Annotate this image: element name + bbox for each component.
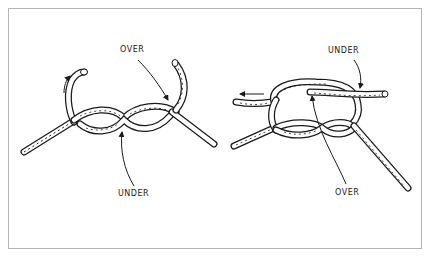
left-over-label: OVER — [120, 46, 144, 54]
right-over-label: OVER — [335, 189, 359, 197]
right-under-label: UNDER — [328, 47, 359, 55]
rope-segment — [310, 91, 388, 97]
under-pointer-arrow-icon — [354, 60, 361, 88]
rope-segment — [172, 112, 214, 144]
rope-segment — [276, 123, 354, 136]
rope-segment — [80, 116, 170, 131]
rope-segment — [273, 82, 358, 124]
rope-segment — [172, 60, 184, 111]
under-pointer-arrow-icon — [122, 132, 135, 186]
left-knot — [24, 60, 214, 187]
left-under-label: UNDER — [118, 190, 149, 198]
over-pointer-arrow-icon — [138, 60, 168, 100]
right-knot — [234, 60, 408, 188]
knot-illustration — [0, 0, 429, 257]
rope-segment — [236, 102, 272, 105]
rope-segment — [354, 126, 408, 188]
over-pointer-arrow-icon — [312, 96, 346, 184]
rope-segment — [24, 122, 72, 152]
rope-segment — [234, 128, 274, 146]
